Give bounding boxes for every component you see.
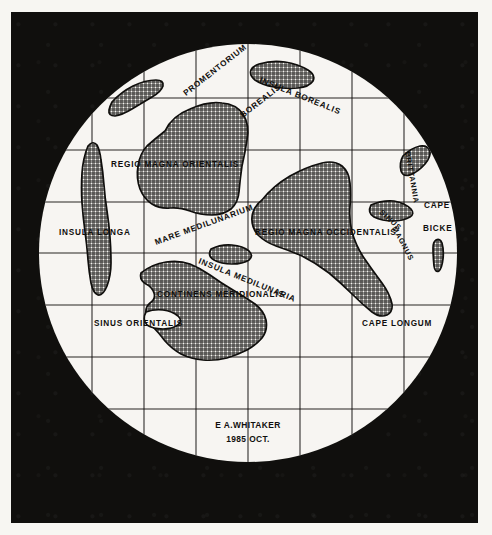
lunar-map-page: PROMENTORIUM BOREALIS INSULA BOREALIS RE… xyxy=(0,0,492,535)
label-bicke: BICKE xyxy=(423,224,452,233)
label-insula-longa: INSULA LONGA xyxy=(59,228,131,237)
lunar-map-figure: PROMENTORIUM BOREALIS INSULA BOREALIS RE… xyxy=(0,0,492,535)
label-regio-magna-occidentalis: REGIO MAGNA OCCIDENTALIS xyxy=(255,228,397,237)
label-continens-meridionalis: CONTINENS MERIDIONALIS xyxy=(157,290,285,299)
label-cape-longum: CAPE LONGUM xyxy=(362,319,432,328)
landmass-small-islet xyxy=(433,239,443,271)
signature-date: 1985 OCT. xyxy=(226,434,270,444)
signature-author: E A.WHITAKER xyxy=(215,420,280,430)
label-sinus-orientalis: SINUS ORIENTALIS xyxy=(94,319,183,328)
label-cape: CAPE xyxy=(424,201,450,210)
label-regio-magna-orientalis: REGIO MAGNA ORIENTALIS xyxy=(111,160,239,169)
landmass-insula-medilunaria xyxy=(210,245,252,264)
